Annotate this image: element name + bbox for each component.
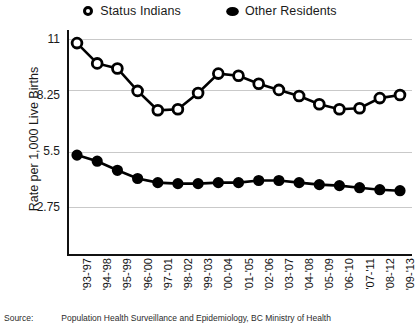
- x-axis-tick-label: '02-'06: [263, 258, 275, 290]
- x-axis-tick-label: '03-'07: [283, 258, 295, 290]
- x-axis-tick-label: '05-'09: [323, 258, 335, 290]
- data-point: [375, 93, 385, 103]
- y-axis-tick-label: 8.25: [6, 88, 60, 102]
- legend-label-other-residents: Other Residents: [245, 4, 337, 18]
- data-point: [395, 90, 405, 100]
- x-axis-tick-label: '00-'04: [222, 258, 234, 290]
- source-label: Source:: [4, 313, 33, 323]
- source-note: Source: Population Health Surveillance a…: [4, 313, 420, 323]
- data-point: [213, 69, 223, 79]
- data-point: [314, 99, 324, 109]
- series-lines: [67, 30, 412, 256]
- data-point: [335, 104, 345, 114]
- data-point: [72, 151, 81, 160]
- data-point: [72, 38, 82, 48]
- data-point: [274, 176, 283, 185]
- plot-area: [67, 30, 412, 256]
- filled-circle-icon: [226, 7, 239, 16]
- x-axis-tick-label: '97-'01: [162, 258, 174, 290]
- data-point: [113, 64, 123, 74]
- x-axis-tick-label: '08-'12: [384, 258, 396, 290]
- data-point: [315, 180, 324, 189]
- x-axis-tick-label: '96-'00: [142, 258, 154, 290]
- data-point: [133, 174, 142, 183]
- data-point: [274, 85, 284, 95]
- x-axis-tick-label: '98-'02: [182, 258, 194, 290]
- data-point: [375, 185, 384, 194]
- x-axis-tick-label: '95-'99: [121, 258, 133, 290]
- x-axis-tick-label: '09-'13: [404, 258, 416, 290]
- data-point: [254, 79, 264, 89]
- data-point: [173, 104, 183, 114]
- data-point: [93, 157, 102, 166]
- data-point: [133, 86, 143, 96]
- data-point: [193, 88, 203, 98]
- data-point: [234, 178, 243, 187]
- data-point: [234, 71, 244, 81]
- x-axis-tick-label: '01-'05: [243, 258, 255, 290]
- x-axis-tick-label: '07-'11: [364, 258, 376, 290]
- data-point: [153, 105, 163, 115]
- data-point: [153, 178, 162, 187]
- source-text: Population Health Surveillance and Epide…: [61, 313, 331, 323]
- legend-entry-status-indians: Status Indians: [83, 4, 181, 18]
- y-axis-tick-label: 5.5: [6, 144, 60, 158]
- data-point: [254, 176, 263, 185]
- data-point: [113, 166, 122, 175]
- data-point: [335, 181, 344, 190]
- data-point: [92, 59, 102, 69]
- legend-entry-other-residents: Other Residents: [227, 4, 337, 18]
- x-axis-tick-label: '04-'08: [303, 258, 315, 290]
- x-axis-tick-label: '93-'97: [81, 258, 93, 290]
- data-point: [395, 186, 404, 195]
- data-point: [355, 103, 365, 113]
- x-axis-tick-label: '06-'10: [343, 258, 355, 290]
- y-axis-tick-label: 2.75: [6, 200, 60, 214]
- x-axis-tick-label: '99-'03: [202, 258, 214, 290]
- data-point: [194, 179, 203, 188]
- data-point: [295, 178, 304, 187]
- y-axis-tick-label: 11: [6, 32, 60, 46]
- chart-container: Status Indians Other Residents Rate per …: [0, 0, 420, 327]
- data-point: [214, 178, 223, 187]
- x-axis-tick-labels: '93-'97'94-'98'95-'99'96-'00'97-'01'98-'…: [67, 258, 412, 308]
- open-circle-icon: [83, 6, 93, 16]
- legend-label-status-indians: Status Indians: [100, 4, 181, 18]
- data-point: [355, 183, 364, 192]
- x-axis-tick-label: '94-'98: [101, 258, 113, 290]
- data-point: [173, 179, 182, 188]
- chart-legend: Status Indians Other Residents: [0, 0, 420, 22]
- data-point: [294, 91, 304, 101]
